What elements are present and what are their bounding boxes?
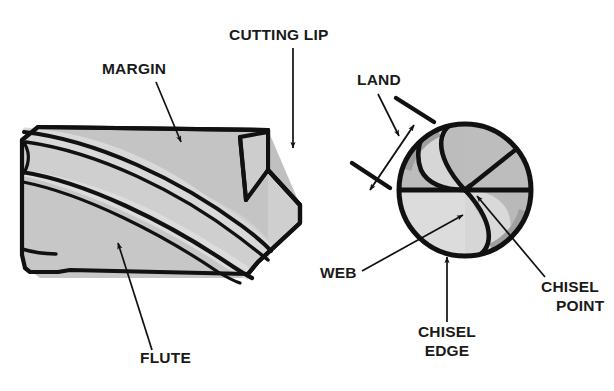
land-tick-lower [352, 163, 390, 188]
label-chisel-point-line2: POINT [556, 297, 605, 314]
label-flute: FLUTE [140, 349, 191, 366]
drill-nomenclature-figure: MARGIN CUTTING LIP FLUTE LAND WEB CHISEL… [0, 0, 614, 391]
side-view-drill-body [22, 127, 300, 283]
label-chisel-edge-line1: CHISEL [418, 323, 476, 340]
label-chisel-point-line1: CHISEL [541, 278, 599, 295]
label-land: LAND [357, 71, 401, 88]
land-tick-upper [396, 98, 434, 122]
drill-top-edge [38, 127, 268, 130]
label-cutting-lip: CUTTING LIP [229, 26, 329, 43]
label-web: WEB [320, 264, 357, 281]
label-chisel-edge-line2: EDGE [425, 342, 470, 359]
diagram-canvas: MARGIN CUTTING LIP FLUTE LAND WEB CHISEL… [0, 0, 614, 391]
end-view-chisel-point-mark [465, 186, 470, 190]
label-margin: MARGIN [102, 60, 166, 77]
